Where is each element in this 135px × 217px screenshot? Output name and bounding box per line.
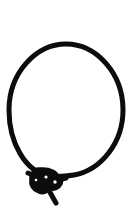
image-canvas xyxy=(0,0,135,217)
cord-loop-illustration xyxy=(0,0,135,217)
knot-hole-1 xyxy=(44,175,47,178)
knot-hole-3 xyxy=(35,179,38,182)
knot-hole-2 xyxy=(53,180,56,183)
background xyxy=(0,0,135,217)
